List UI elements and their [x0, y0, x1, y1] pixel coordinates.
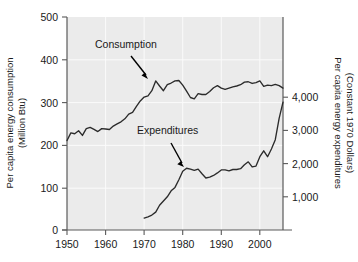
left-tick-label: 200: [40, 139, 58, 151]
x-tick-label: 1990: [210, 238, 234, 250]
left-tick-label: 100: [40, 182, 58, 194]
right-axis-title: Per capita energy expenditures (Constant…: [333, 57, 356, 189]
left-tick-label: 400: [40, 54, 58, 66]
consumption-annotation-label: Consumption: [95, 38, 157, 50]
x-tick-label: 1980: [171, 238, 195, 250]
energy-consumption-expenditures-chart: 500 400 300 200 100 0 4,000 3,000 2,000 …: [0, 0, 358, 262]
left-tick-label: 500: [40, 11, 58, 23]
x-tick-label: 1950: [55, 238, 79, 250]
left-axis-title-line2: (Million Btu): [16, 98, 27, 148]
left-tick-label: 300: [40, 97, 58, 109]
left-axis-title-line1: Per capita energy consumption: [4, 58, 15, 189]
right-axis-title-line1: Per capita energy expenditures: [333, 57, 344, 189]
right-tick-label: 4,000: [292, 91, 318, 103]
right-tick-label: 2,000: [292, 158, 318, 170]
right-tick-label: 1,000: [292, 191, 318, 203]
right-tick-label: 3,000: [292, 124, 318, 136]
expenditures-annotation-label: Expenditures: [137, 124, 198, 136]
x-tick-label: 1960: [94, 238, 118, 250]
right-axis-title-line2: (Constant 1970 Dollars): [345, 73, 356, 173]
x-tick-label: 2000: [248, 238, 272, 250]
left-tick-label: 0: [52, 224, 58, 236]
x-tick-label: 1970: [132, 238, 156, 250]
